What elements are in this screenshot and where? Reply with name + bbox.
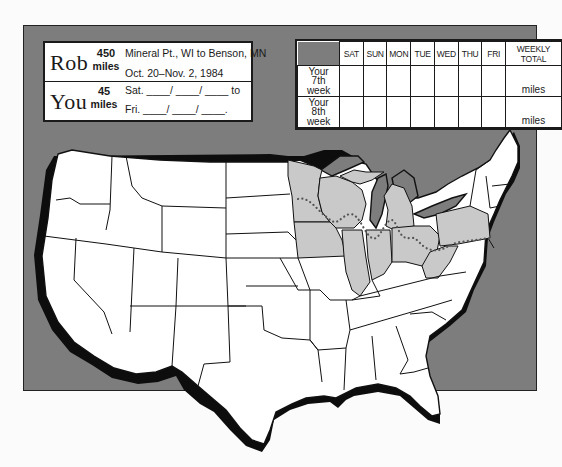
week8-sun-cell[interactable] xyxy=(363,97,387,128)
week7-sun-cell[interactable] xyxy=(363,66,387,97)
log-header-row: SAT SUN MON TUE WED THU FRI WEEKLY TOTAL xyxy=(298,42,562,66)
week7-wed-cell[interactable] xyxy=(434,66,458,97)
rob-row: Rob 450 miles Mineral Pt., WI to Benson,… xyxy=(45,43,251,82)
week8-wed-cell[interactable] xyxy=(434,97,458,128)
week8-sat-cell[interactable] xyxy=(340,97,364,128)
week8-total-cell[interactable]: miles xyxy=(506,97,562,128)
week7-fri-cell[interactable] xyxy=(482,66,506,97)
rob-name: Rob xyxy=(50,50,88,76)
week-label: Your 8th week xyxy=(298,97,340,128)
you-miles-value: 45 xyxy=(87,85,121,97)
you-row: You 45 miles Sat. ____/ ____/ ____ to Fr… xyxy=(45,82,251,121)
week7-mon-cell[interactable] xyxy=(387,66,411,97)
week8-tue-cell[interactable] xyxy=(411,97,435,128)
rob-miles-label: miles xyxy=(89,60,123,72)
rob-route: Mineral Pt., WI to Benson, MN xyxy=(125,47,266,59)
header-sun: SUN xyxy=(363,42,387,66)
header-tue: TUE xyxy=(411,42,435,66)
state-pennsylvania xyxy=(436,206,490,246)
you-start-date-field[interactable]: Sat. ____/ ____/ ____ to xyxy=(125,84,240,96)
week7-thu-cell[interactable] xyxy=(458,66,482,97)
week8-fri-cell[interactable] xyxy=(482,97,506,128)
header-thu: THU xyxy=(458,42,482,66)
week7-tue-cell[interactable] xyxy=(411,66,435,97)
you-end-date-field[interactable]: Fri. ____/ ____/ ____. xyxy=(125,103,228,115)
header-weekly-total: WEEKLY TOTAL xyxy=(506,42,562,66)
runner-info-box: Rob 450 miles Mineral Pt., WI to Benson,… xyxy=(43,41,253,122)
week-label: Your 7th week xyxy=(298,66,340,97)
header-corner xyxy=(298,42,340,66)
you-name: You xyxy=(50,89,87,115)
rob-dates: Oct. 20–Nov. 2, 1984 xyxy=(125,67,223,79)
header-fri: FRI xyxy=(482,42,506,66)
header-sat: SAT xyxy=(340,42,364,66)
week7-total-cell[interactable]: miles xyxy=(506,66,562,97)
week8-mon-cell[interactable] xyxy=(387,97,411,128)
week8-thu-cell[interactable] xyxy=(458,97,482,128)
land-mass xyxy=(42,130,518,444)
rob-miles-value: 450 xyxy=(89,47,123,59)
week7-sat-cell[interactable] xyxy=(340,66,364,97)
weekly-log-table: SAT SUN MON TUE WED THU FRI WEEKLY TOTAL… xyxy=(297,41,562,128)
table-row: Your 7th week miles xyxy=(298,66,562,97)
you-miles-label: miles xyxy=(87,98,121,110)
table-row: Your 8th week miles xyxy=(298,97,562,128)
header-mon: MON xyxy=(387,42,411,66)
header-wed: WED xyxy=(434,42,458,66)
